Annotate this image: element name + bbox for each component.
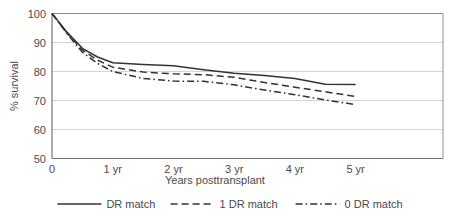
y-tick-label: 90 <box>34 37 46 49</box>
chart-legend: DR match1 DR match0 DR match <box>57 198 402 210</box>
y-tick-label: 100 <box>28 8 46 20</box>
legend-label: 1 DR match <box>220 198 278 210</box>
y-tick-label: 80 <box>34 66 46 78</box>
x-axis-title: Years posttransplant <box>165 174 265 186</box>
y-tick-label: 70 <box>34 95 46 107</box>
legend-label: DR match <box>106 198 155 210</box>
y-axis-title: % survival <box>8 61 20 111</box>
x-tick-label: 3 yr <box>225 163 244 175</box>
y-tick-label: 50 <box>34 153 46 165</box>
x-tick-label: 5 yr <box>346 163 365 175</box>
x-tick-label: 0 <box>49 163 55 175</box>
survival-chart-figure: 5060708090100 01 yr2 yr3 yr4 yr5 yr % su… <box>0 0 459 223</box>
x-tick-label: 4 yr <box>286 163 305 175</box>
y-tick-label: 60 <box>34 124 46 136</box>
x-tick-label: 2 yr <box>164 163 183 175</box>
chart-canvas: 5060708090100 01 yr2 yr3 yr4 yr5 yr % su… <box>0 0 459 223</box>
legend-label: 0 DR match <box>345 198 403 210</box>
x-tick-label: 1 yr <box>104 163 123 175</box>
